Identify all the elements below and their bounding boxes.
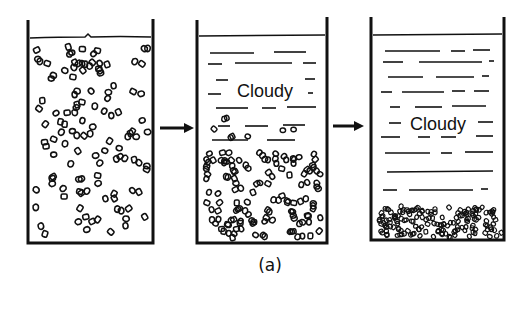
figure-caption: (a)	[250, 255, 290, 275]
particles-uniform	[32, 43, 151, 237]
container-stage-3: Cloudy	[371, 17, 504, 240]
arrow-right-icon	[160, 123, 194, 133]
container-stage-2: Cloudy	[197, 17, 327, 243]
cloudy-label-stage-2: Cloudy	[237, 81, 293, 101]
cloudy-label-stage-3: Cloudy	[410, 114, 466, 134]
container-stage-1	[28, 19, 153, 243]
particles-settling	[203, 115, 324, 241]
arrow-right-icon	[333, 121, 364, 131]
sediment-layer	[377, 204, 504, 240]
